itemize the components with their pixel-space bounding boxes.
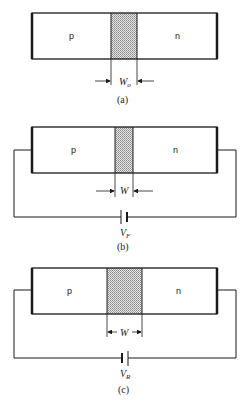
circuit-wire bbox=[14, 150, 121, 217]
depletion-region bbox=[115, 127, 133, 173]
caption-c: (c) bbox=[118, 384, 129, 396]
caption-b: (b) bbox=[117, 241, 129, 253]
p-region-label: p bbox=[67, 286, 72, 296]
depletion-region bbox=[107, 268, 142, 314]
width-label-w0: Wo bbox=[119, 76, 131, 89]
n-region-label: n bbox=[173, 145, 178, 155]
width-label-w: W bbox=[120, 327, 130, 338]
pn-junction-figure: p n Wo (a) p n W VF (b) bbox=[0, 0, 251, 409]
caption-a: (a) bbox=[117, 94, 128, 106]
width-label-w: W bbox=[120, 185, 130, 196]
p-region-label: p bbox=[71, 145, 76, 155]
voltage-label-vf: VF bbox=[120, 227, 131, 240]
circuit-wire bbox=[14, 290, 122, 358]
circuit-wire bbox=[128, 290, 236, 358]
circuit-wire bbox=[127, 150, 236, 217]
voltage-label-vr: VR bbox=[120, 368, 131, 381]
diagram-b-forward-bias: p n W VF (b) bbox=[14, 127, 236, 253]
n-region-label: n bbox=[176, 286, 181, 296]
depletion-region bbox=[111, 13, 137, 59]
p-region-label: p bbox=[69, 31, 74, 41]
diagram-c-reverse-bias: p n W VR (c) bbox=[14, 268, 236, 396]
diagram-a-equilibrium: p n Wo (a) bbox=[32, 13, 217, 106]
n-region-label: n bbox=[175, 31, 180, 41]
